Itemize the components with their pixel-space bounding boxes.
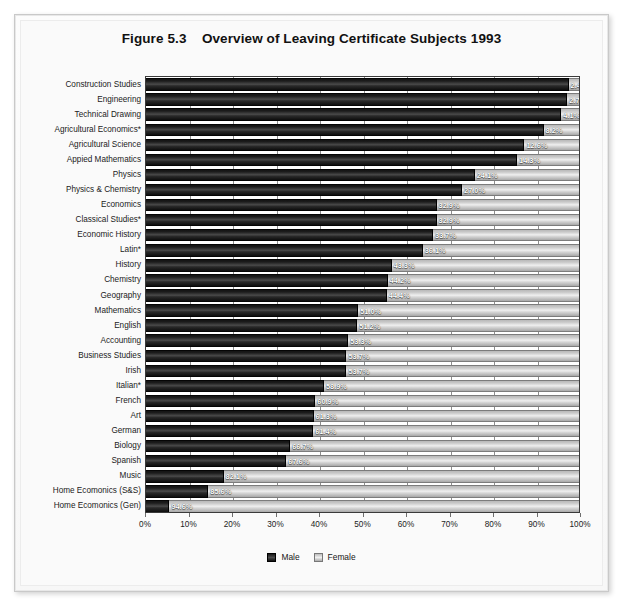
bar-row[interactable]: 51.0% xyxy=(146,304,579,316)
y-axis-label: English xyxy=(15,320,141,329)
bar-row[interactable]: 8.2% xyxy=(146,124,579,136)
x-tick-label: 100% xyxy=(570,520,591,529)
bar-segment-female[interactable]: 32.9% xyxy=(437,199,579,211)
y-axis-label: Irish xyxy=(15,365,141,374)
bar-segment-male[interactable] xyxy=(146,214,437,226)
bar-segment-male[interactable] xyxy=(146,199,437,211)
bar-row[interactable]: 94.6% xyxy=(146,500,579,512)
bar-row[interactable]: 32.9% xyxy=(146,199,579,211)
bar-segment-female[interactable]: 58.9% xyxy=(324,380,579,392)
bar-segment-male[interactable] xyxy=(146,380,324,392)
bar-segment-male[interactable] xyxy=(146,274,388,286)
bar-row[interactable]: 14.3% xyxy=(146,154,579,166)
bar-row[interactable]: 85.6% xyxy=(146,485,579,497)
bar-row[interactable]: 53.3% xyxy=(146,334,579,346)
y-axis-label: History xyxy=(15,260,141,269)
bar-segment-female[interactable]: 44.2% xyxy=(388,274,579,286)
bar-row[interactable]: 2.4% xyxy=(146,78,579,90)
bar-segment-male[interactable] xyxy=(146,244,423,256)
bar-segment-male[interactable] xyxy=(146,410,314,422)
bar-segment-male[interactable] xyxy=(146,78,569,90)
bar-segment-female[interactable]: 61.3% xyxy=(314,410,579,422)
bar-row[interactable]: 2.7% xyxy=(146,93,579,105)
bar-segment-male[interactable] xyxy=(146,395,315,407)
bar-segment-male[interactable] xyxy=(146,154,517,166)
bar-row[interactable]: 51.2% xyxy=(146,319,579,331)
bar-segment-female[interactable]: 33.7% xyxy=(433,229,579,241)
bar-segment-female[interactable]: 36.1% xyxy=(423,244,579,256)
bar-segment-female[interactable]: 85.6% xyxy=(208,485,579,497)
bar-row[interactable]: 12.6% xyxy=(146,139,579,151)
bar-segment-female[interactable]: 2.4% xyxy=(569,78,579,90)
x-tick-mark xyxy=(232,513,233,517)
bar-segment-female[interactable]: 2.7% xyxy=(567,93,579,105)
bar-row[interactable]: 44.4% xyxy=(146,289,579,301)
bar-row[interactable]: 27.0% xyxy=(146,184,579,196)
bar-segment-male[interactable] xyxy=(146,485,208,497)
bar-segment-female[interactable]: 51.0% xyxy=(358,304,579,316)
bar-segment-female[interactable]: 60.9% xyxy=(315,395,579,407)
bar-segment-female[interactable]: 82.1% xyxy=(224,470,579,482)
bar-segment-male[interactable] xyxy=(146,289,387,301)
bar-segment-female[interactable]: 8.2% xyxy=(544,124,580,136)
bar-segment-male[interactable] xyxy=(146,184,462,196)
bar-segment-female[interactable]: 14.3% xyxy=(517,154,579,166)
bar-row[interactable]: 53.7% xyxy=(146,365,579,377)
bar-row[interactable]: 66.7% xyxy=(146,440,579,452)
bar-segment-male[interactable] xyxy=(146,455,286,467)
bar-segment-male[interactable] xyxy=(146,304,358,316)
bar-row[interactable]: 61.4% xyxy=(146,425,579,437)
bar-segment-female[interactable]: 94.6% xyxy=(169,500,579,512)
bar-row[interactable]: 53.7% xyxy=(146,350,579,362)
bar-segment-male[interactable] xyxy=(146,319,357,331)
bar-segment-male[interactable] xyxy=(146,350,346,362)
bar-row[interactable]: 67.6% xyxy=(146,455,579,467)
bar-value-label: 67.6% xyxy=(288,457,309,466)
bar-segment-male[interactable] xyxy=(146,470,224,482)
bar-segment-female[interactable]: 53.7% xyxy=(346,365,579,377)
bar-segment-male[interactable] xyxy=(146,440,290,452)
legend-label-male: Male xyxy=(281,552,299,562)
bar-segment-male[interactable] xyxy=(146,139,524,151)
bar-segment-female[interactable]: 12.6% xyxy=(524,139,579,151)
bar-value-label: 44.4% xyxy=(389,291,410,300)
bar-segment-female[interactable]: 53.7% xyxy=(346,350,579,362)
bar-segment-female[interactable]: 32.9% xyxy=(437,214,579,226)
bar-segment-female[interactable]: 51.2% xyxy=(357,319,579,331)
bar-row[interactable]: 36.1% xyxy=(146,244,579,256)
bar-row[interactable]: 61.3% xyxy=(146,410,579,422)
bar-segment-female[interactable]: 61.4% xyxy=(313,425,579,437)
bar-row[interactable]: 32.9% xyxy=(146,214,579,226)
bar-segment-female[interactable]: 66.7% xyxy=(290,440,579,452)
bar-segment-male[interactable] xyxy=(146,365,346,377)
bar-row[interactable]: 58.9% xyxy=(146,380,579,392)
bar-segment-male[interactable] xyxy=(146,124,544,136)
bar-segment-female[interactable]: 53.3% xyxy=(348,334,579,346)
bar-segment-female[interactable]: 67.6% xyxy=(286,455,579,467)
bar-row[interactable]: 24.1% xyxy=(146,169,579,181)
bar-segment-male[interactable] xyxy=(146,500,169,512)
bar-segment-male[interactable] xyxy=(146,93,567,105)
bar-row[interactable]: 44.2% xyxy=(146,274,579,286)
bar-segment-male[interactable] xyxy=(146,169,475,181)
x-tick-label: 60% xyxy=(398,520,414,529)
y-axis-label: Business Studies xyxy=(15,350,141,359)
bar-segment-female[interactable]: 27.0% xyxy=(462,184,579,196)
bar-segment-male[interactable] xyxy=(146,259,392,271)
bar-row[interactable]: 33.7% xyxy=(146,229,579,241)
bar-segment-male[interactable] xyxy=(146,108,561,120)
bar-segment-female[interactable]: 4.1% xyxy=(561,108,579,120)
bar-value-label: 44.2% xyxy=(390,276,411,285)
bar-segment-female[interactable]: 24.1% xyxy=(475,169,579,181)
bar-segment-female[interactable]: 44.4% xyxy=(387,289,579,301)
bar-value-label: 43.3% xyxy=(394,261,415,270)
bar-segment-female[interactable]: 43.3% xyxy=(392,259,579,271)
bar-row[interactable]: 43.3% xyxy=(146,259,579,271)
bar-segment-male[interactable] xyxy=(146,425,313,437)
bar-row[interactable]: 4.1% xyxy=(146,108,579,120)
bar-row[interactable]: 82.1% xyxy=(146,470,579,482)
bar-value-label: 58.9% xyxy=(326,381,347,390)
bar-segment-male[interactable] xyxy=(146,334,348,346)
bar-row[interactable]: 60.9% xyxy=(146,395,579,407)
bar-segment-male[interactable] xyxy=(146,229,433,241)
